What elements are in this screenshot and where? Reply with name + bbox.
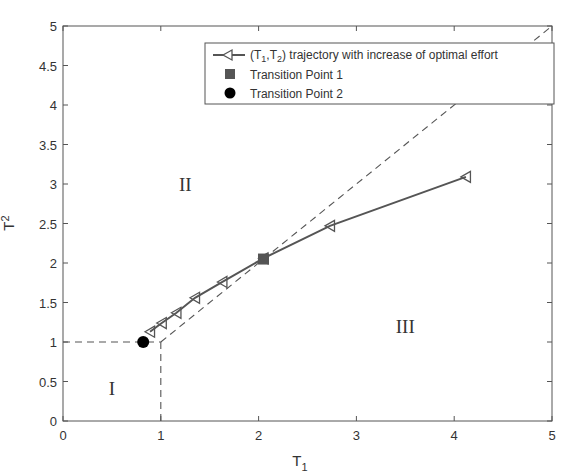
legend: (T1,T2) trajectory with increase of opti… bbox=[205, 43, 554, 104]
legend-label-transition-1: Transition Point 1 bbox=[250, 68, 343, 82]
region-label-ii: II bbox=[179, 174, 192, 195]
y-tick-label: 5 bbox=[50, 19, 57, 34]
y-tick-label: 2.5 bbox=[39, 217, 57, 232]
transition-point-2-marker bbox=[137, 336, 149, 348]
y-tick-label: 3.5 bbox=[39, 138, 57, 153]
trajectory-line bbox=[150, 177, 466, 332]
chart: 01234500.511.522.533.544.55 T1 T2 I II I… bbox=[0, 0, 562, 476]
y-tick-label: 4 bbox=[50, 98, 57, 113]
legend-square-icon bbox=[225, 69, 235, 79]
y-tick-label: 0.5 bbox=[39, 375, 57, 390]
y-tick-label: 4.5 bbox=[39, 59, 57, 74]
y-tick-label: 3 bbox=[50, 177, 57, 192]
y-tick-label: 1.5 bbox=[39, 296, 57, 311]
legend-label-transition-2: Transition Point 2 bbox=[250, 87, 343, 101]
x-tick-label: 2 bbox=[255, 428, 262, 443]
y-tick-label: 2 bbox=[50, 256, 57, 271]
x-tick-label: 1 bbox=[157, 428, 164, 443]
region-label-iii: III bbox=[396, 316, 415, 337]
legend-label-trajectory: (T1,T2) trajectory with increase of opti… bbox=[250, 48, 499, 64]
y-axis-label: T2 bbox=[0, 215, 17, 230]
x-tick-label: 0 bbox=[59, 428, 66, 443]
y-tick-label: 0 bbox=[50, 414, 57, 429]
trajectory-marker bbox=[145, 326, 155, 337]
x-tick-label: 5 bbox=[548, 428, 555, 443]
x-tick-label: 3 bbox=[353, 428, 360, 443]
x-axis-label: T1 bbox=[292, 452, 307, 473]
x-tick-label: 4 bbox=[451, 428, 458, 443]
region-label-i: I bbox=[109, 378, 115, 399]
legend-circle-icon bbox=[225, 88, 236, 99]
y-tick-label: 1 bbox=[50, 335, 57, 350]
